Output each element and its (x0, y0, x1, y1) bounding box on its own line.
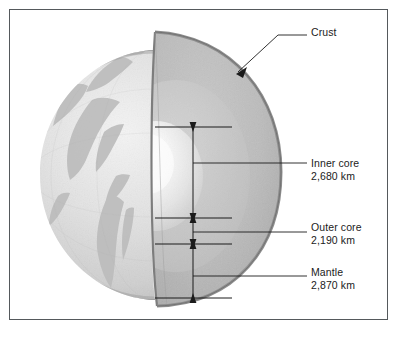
label-outer-core-value: 2,190 km (311, 234, 362, 247)
label-outer-core-name: Outer core (311, 221, 362, 233)
label-inner-core-value: 2,680 km (311, 170, 359, 183)
label-mantle-value: 2,870 km (311, 279, 355, 292)
label-crust-name: Crust (311, 26, 337, 38)
leader-crust (238, 35, 307, 72)
diagram-page: Crust Inner core 2,680 km Outer core 2,1… (0, 0, 399, 339)
label-mantle: Mantle 2,870 km (311, 266, 355, 292)
label-outer-core: Outer core 2,190 km (311, 221, 362, 247)
label-crust: Crust (311, 26, 337, 39)
label-inner-core-name: Inner core (311, 157, 359, 169)
label-inner-core: Inner core 2,680 km (311, 157, 359, 183)
label-mantle-name: Mantle (311, 266, 343, 278)
